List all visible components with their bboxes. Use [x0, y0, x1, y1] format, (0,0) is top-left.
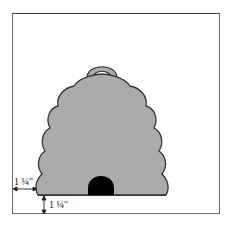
side-margin-arrow-icon: [13, 187, 37, 191]
beehive-diagram: [0, 0, 233, 230]
bottom-margin-arrow-icon: [42, 196, 46, 214]
bottom-margin-label: 1 ¼": [49, 199, 68, 210]
side-margin-label: 1 ¼": [14, 176, 33, 187]
